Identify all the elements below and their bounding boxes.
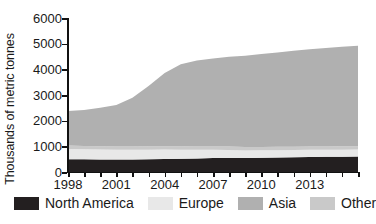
legend-item[interactable]: Other — [310, 196, 376, 210]
legend-item-label: North America — [45, 196, 134, 210]
legend-item[interactable]: Europe — [148, 196, 224, 210]
area-band-asia — [68, 46, 358, 147]
stacked-area-svg — [68, 18, 358, 172]
x-axis-tick-label: 2013 — [288, 178, 332, 192]
x-axis-tick-label: 2007 — [191, 178, 235, 192]
x-axis-tick — [229, 172, 231, 177]
y-axis-tick — [62, 146, 67, 148]
x-axis-tick — [358, 172, 360, 177]
legend-item[interactable]: North America — [14, 196, 134, 210]
legend-swatch-icon — [238, 197, 263, 210]
y-axis-tick-label: 6000 — [18, 12, 62, 25]
y-axis-tick — [62, 18, 67, 20]
stacked-area-plot — [68, 18, 358, 172]
y-axis-tick — [62, 95, 67, 97]
legend-item-label: Other — [341, 196, 376, 210]
x-axis-tick-label: 2010 — [239, 178, 283, 192]
legend-item-label: Asia — [269, 196, 296, 210]
y-axis-tick-label: 4000 — [18, 63, 62, 76]
x-axis-tick-label: 2001 — [94, 178, 138, 192]
y-axis-tick-label: 5000 — [18, 37, 62, 50]
y-axis-tick-label: 3000 — [18, 89, 62, 102]
legend-swatch-icon — [14, 197, 39, 210]
legend-swatch-icon — [310, 197, 335, 210]
x-axis-tick — [342, 172, 344, 177]
x-axis-tick-label: 2004 — [143, 178, 187, 192]
y-axis-tick-label: 2000 — [18, 114, 62, 127]
y-axis-tick — [62, 44, 67, 46]
legend-item[interactable]: Asia — [238, 196, 296, 210]
x-axis-tick — [277, 172, 279, 177]
x-axis-tick — [181, 172, 183, 177]
x-axis-tick-label: 1998 — [46, 178, 90, 192]
y-axis-tick — [62, 69, 67, 71]
legend-swatch-icon — [148, 197, 173, 210]
chart-legend: North AmericaEuropeAsiaOther — [14, 193, 354, 213]
y-axis-tick — [62, 172, 67, 174]
plot-area — [68, 18, 358, 172]
y-axis-tick — [62, 121, 67, 123]
x-axis-tick — [84, 172, 86, 177]
x-axis-tick — [326, 172, 328, 177]
y-axis-line — [67, 18, 69, 173]
legend-item-label: Europe — [179, 196, 224, 210]
x-axis-tick — [132, 172, 134, 177]
y-axis-tick-label: 1000 — [18, 140, 62, 153]
